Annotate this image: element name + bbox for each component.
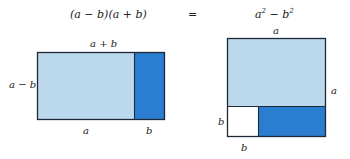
right-side-label: a: [331, 86, 337, 96]
left-top-label: a + b: [90, 39, 117, 49]
left-light-region: [38, 53, 135, 120]
right-top-label: a: [273, 26, 279, 36]
diagram-canvas: [0, 0, 350, 159]
right-square: [228, 39, 326, 137]
left-bottom-label-a: a: [83, 126, 89, 136]
left-rectangle: [38, 53, 165, 120]
left-side-label: a − b: [9, 80, 36, 90]
right-left-label: b: [218, 117, 224, 127]
left-dark-region: [135, 53, 165, 120]
right-dark-region: [259, 107, 326, 137]
right-light-region: [228, 39, 326, 107]
right-white-region: [228, 107, 259, 137]
right-bottom-label: b: [241, 143, 247, 153]
left-bottom-label-b: b: [146, 126, 152, 136]
